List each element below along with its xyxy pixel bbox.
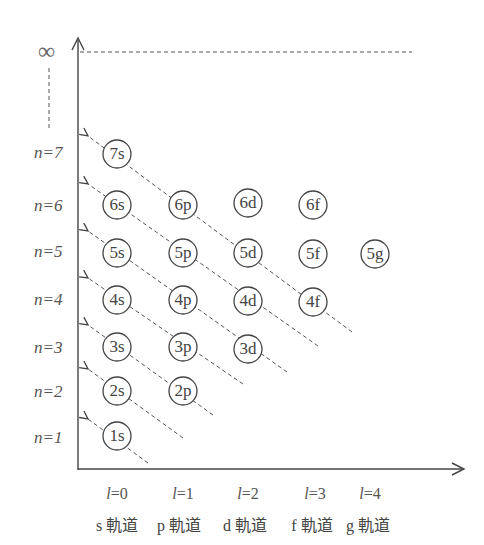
l-value-3: l=3 [285, 485, 345, 503]
x-axis [78, 463, 464, 475]
n-label-7: n=7 [34, 143, 62, 163]
orbital-name-s: s 軌道 [82, 512, 152, 536]
orbital-label: 6p [169, 191, 197, 219]
n-label-4: n=4 [34, 290, 62, 310]
orbital-label: 4p [169, 286, 197, 314]
orbital-name-p: p 軌道 [144, 512, 214, 536]
l-value-0: l=0 [87, 485, 147, 503]
orbital-label: 2p [169, 377, 197, 405]
diagram-canvas [0, 0, 484, 545]
n-label-6: n=6 [34, 196, 62, 216]
orbital-label: 5f [299, 240, 327, 268]
orbital-label: 4f [299, 288, 327, 316]
orbital-label: 7s [103, 140, 131, 168]
orbital-label: 5g [361, 240, 389, 268]
orbital-label: 5d [234, 239, 262, 267]
orbital-name-d: d 軌道 [210, 512, 280, 536]
orbital-label: 6s [103, 191, 131, 219]
n-label-2: n=2 [34, 382, 62, 402]
orbital-label: 6d [234, 189, 262, 217]
y-axis [72, 38, 84, 470]
n-label-1: n=1 [34, 428, 62, 448]
orbital-label: 5p [169, 239, 197, 267]
n-label-3: n=3 [34, 338, 62, 358]
n-label-5: n=5 [34, 242, 62, 262]
orbital-label: 2s [103, 377, 131, 405]
infinity-label: ∞ [38, 38, 55, 65]
orbital-name-g: g 軌道 [333, 512, 403, 536]
orbital-label: 3p [169, 333, 197, 361]
orbital-label: 4s [103, 286, 131, 314]
orbital-label: 5s [103, 239, 131, 267]
l-value-4: l=4 [340, 485, 400, 503]
l-value-2: l=2 [218, 485, 278, 503]
l-value-1: l=1 [153, 485, 213, 503]
orbital-label: 4d [234, 287, 262, 315]
orbital-label: 6f [299, 191, 327, 219]
orbital-label: 3d [234, 335, 262, 363]
orbital-label: 1s [103, 422, 131, 450]
orbital-label: 3s [103, 333, 131, 361]
